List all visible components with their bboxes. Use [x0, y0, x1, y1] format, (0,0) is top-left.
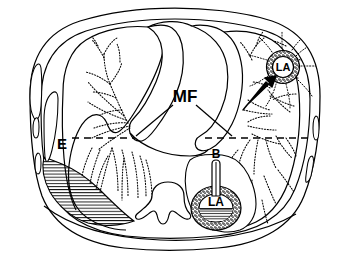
label-bronchus: B	[212, 147, 221, 161]
rib-icon	[35, 153, 41, 174]
label-lung-abscess-lower: LA	[208, 195, 224, 209]
label-effusion: E	[57, 135, 67, 152]
label-meniscus-fat: MF	[173, 87, 198, 106]
bronchus-tube: B	[212, 147, 221, 196]
figure-canvas: LA	[0, 0, 346, 261]
rib-icon	[33, 118, 39, 138]
rib-icon	[313, 116, 319, 140]
label-lung-abscess-upper: LA	[276, 61, 291, 73]
thorax-cross-section-figure: LA	[0, 0, 346, 261]
